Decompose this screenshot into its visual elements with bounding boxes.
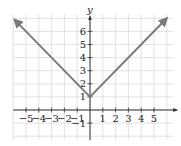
x-tick-label: 1 [100, 113, 106, 124]
y-tick-label: 5 [80, 39, 86, 50]
x-tick-label: 2 [112, 113, 118, 124]
x-tick-label: 3 [125, 113, 131, 124]
y-tick-label: 6 [80, 26, 86, 37]
x-tick-label: 4 [138, 113, 144, 124]
y-tick-label: 3 [80, 65, 86, 76]
absolute-value-graph: xy −5−4−3−2−112345−1123456 [0, 0, 181, 146]
tick-labels: −5−4−3−2−112345−1123456 [19, 26, 158, 129]
y-axis-label: y [86, 4, 93, 15]
y-tick-label: 4 [80, 52, 86, 63]
x-tick-label: 5 [151, 113, 157, 124]
y-tick-label: −1 [71, 118, 86, 129]
